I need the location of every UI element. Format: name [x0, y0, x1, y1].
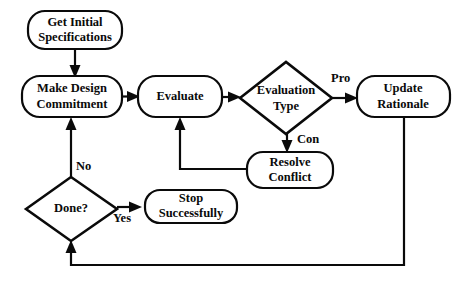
node-label-line1: Evaluate: [156, 89, 204, 103]
node-label-line2: Rationale: [377, 97, 429, 111]
node-label-line2: Successfully: [159, 206, 224, 220]
node-evaluate[interactable]: Evaluate: [138, 76, 222, 117]
node-resolve-conflict[interactable]: Resolve Conflict: [247, 152, 333, 188]
edge-specs-to-commitment: [70, 49, 81, 78]
node-label-line2: Conflict: [268, 170, 312, 184]
node-evaluation-type[interactable]: Evaluation Type: [240, 62, 332, 134]
node-label-line1: Update: [384, 81, 423, 95]
edge-evaluation-type-con-to-resolve-conflict: [282, 134, 293, 153]
edge-evaluate-to-evaluation-type: [222, 92, 241, 103]
node-label-line1: Get Initial: [47, 15, 103, 29]
node-stop-successfully[interactable]: Stop Successfully: [145, 190, 237, 223]
node-update-rationale[interactable]: Update Rationale: [357, 76, 450, 117]
flowchart-canvas: Get Initial Specifications Make Design C…: [0, 0, 465, 284]
edge-resolve-conflict-to-evaluate: [175, 117, 248, 169]
node-done[interactable]: Done?: [26, 177, 117, 241]
node-label-line2: Type: [273, 99, 300, 113]
edge-label-pro: Pro: [331, 71, 350, 85]
edge-evaluation-type-pro-to-update-rationale: [332, 93, 358, 104]
node-label-line1: Stop: [179, 191, 203, 205]
flowchart-svg: Get Initial Specifications Make Design C…: [0, 0, 465, 284]
node-get-initial-specifications[interactable]: Get Initial Specifications: [28, 11, 122, 49]
edge-label-con: Con: [297, 132, 319, 146]
node-make-design-commitment[interactable]: Make Design Commitment: [22, 76, 122, 117]
node-label-line2: Commitment: [37, 97, 109, 111]
node-label-line1: Done?: [54, 201, 88, 215]
node-label-line1: Resolve: [270, 155, 311, 169]
edge-label-no: No: [76, 159, 91, 173]
node-label-line1: Make Design: [37, 81, 107, 95]
edge-update-rationale-to-done: [66, 117, 405, 265]
edge-done-no-to-commitment: [66, 117, 77, 177]
node-label-line2: Specifications: [38, 30, 112, 44]
edge-label-yes: Yes: [113, 211, 131, 225]
node-label-line1: Evaluation: [257, 83, 315, 97]
